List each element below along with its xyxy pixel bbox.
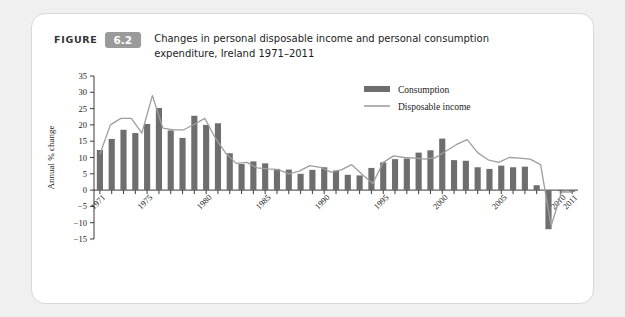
bar xyxy=(486,169,492,190)
y-axis: 35302520151050−5−10−15 xyxy=(74,71,94,244)
bar xyxy=(298,174,304,190)
bar xyxy=(120,130,126,190)
consumption-bars xyxy=(97,108,575,229)
bar xyxy=(475,167,481,190)
y-tick-label: −15 xyxy=(74,234,87,244)
x-tick-label: 2005 xyxy=(490,192,509,211)
bar xyxy=(132,133,138,190)
chart-legend: ConsumptionDisposable income xyxy=(364,85,471,112)
bar xyxy=(144,124,150,190)
y-tick-label: 25 xyxy=(79,104,88,114)
bar xyxy=(368,168,374,190)
y-tick-label: 35 xyxy=(79,71,88,81)
y-tick-label: 0 xyxy=(83,185,87,195)
bar xyxy=(451,160,457,190)
bar xyxy=(333,171,339,191)
y-tick-label: 30 xyxy=(79,87,88,97)
legend-label: Consumption xyxy=(398,85,449,95)
legend-swatch-consumption xyxy=(364,86,390,92)
bar xyxy=(357,175,363,190)
bar xyxy=(392,159,398,190)
bar xyxy=(309,170,315,190)
bar xyxy=(404,158,410,190)
bar xyxy=(168,130,174,190)
x-tick-label: 1975 xyxy=(135,192,154,211)
bar xyxy=(191,116,197,190)
bar xyxy=(439,139,445,191)
bar xyxy=(238,164,244,190)
bar xyxy=(427,150,433,190)
bar xyxy=(557,190,563,191)
y-tick-label: 10 xyxy=(79,153,88,163)
y-tick-label: −10 xyxy=(74,218,87,228)
y-tick-label: 20 xyxy=(79,120,88,130)
figure-card: FIGURE 6.2 Changes in personal disposabl… xyxy=(31,13,594,304)
bar xyxy=(463,161,469,190)
bar xyxy=(522,167,528,190)
y-tick-label: 15 xyxy=(79,136,88,146)
chart-svg: 35302520151050−5−10−15 19711975198019851… xyxy=(32,14,595,305)
x-axis: 1971197519801985199019952000200520102011 xyxy=(88,190,579,211)
x-tick-label: 1980 xyxy=(194,192,213,211)
bar xyxy=(498,166,504,190)
bar xyxy=(97,150,103,190)
x-tick-label: 1990 xyxy=(313,192,332,211)
y-axis-title: Annual % change xyxy=(46,126,56,190)
bar xyxy=(156,108,162,190)
y-tick-label: 5 xyxy=(83,169,87,179)
bar xyxy=(345,175,351,190)
bar xyxy=(215,123,221,190)
bar xyxy=(274,169,280,190)
x-tick-label: 1995 xyxy=(372,192,391,211)
x-tick-label: 1985 xyxy=(254,192,273,211)
chart-plot-area: 35302520151050−5−10−15 19711975198019851… xyxy=(32,14,595,305)
y-tick-label: −5 xyxy=(78,201,87,211)
bar xyxy=(262,163,268,190)
x-tick-label: 1971 xyxy=(88,192,107,211)
bar xyxy=(203,125,209,190)
legend-label: Disposable income xyxy=(398,102,471,112)
bar xyxy=(179,138,185,190)
bar xyxy=(534,185,540,190)
x-tick-label: 2000 xyxy=(431,192,450,211)
bar xyxy=(109,139,115,190)
bar xyxy=(510,167,516,190)
